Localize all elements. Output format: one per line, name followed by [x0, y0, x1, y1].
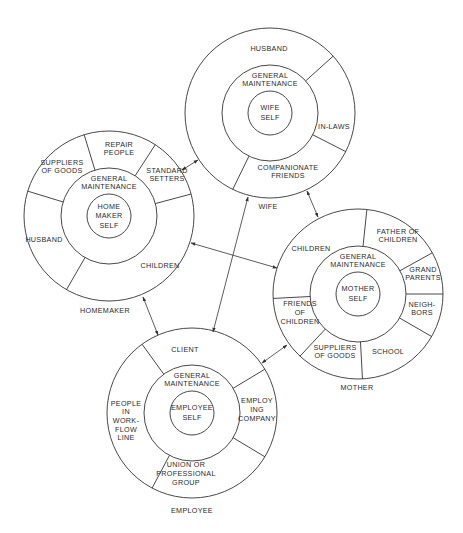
segment-label: EMPLOYINGCOMPANY [238, 396, 276, 422]
segment-label: SUPPLIERSOF GOODS [40, 158, 83, 176]
segment-divider [233, 438, 265, 457]
self-label: EMPLOYEESELF [171, 403, 213, 422]
role-title: EMPLOYEE [171, 506, 213, 515]
segment-divider [306, 56, 333, 81]
segment-label: CLIENT [171, 345, 199, 354]
maintenance-label: GENERALMAINTENANCE [330, 252, 386, 269]
segment-divider [28, 191, 63, 202]
role-diagram: WIFESELFGENERALMAINTENANCEHUSBANDIN-LAWS… [0, 0, 463, 533]
role-wife: WIFESELFGENERALMAINTENANCEHUSBANDIN-LAWS… [185, 28, 355, 211]
segment-label: STANDARDSETTERS [146, 166, 187, 184]
segment-divider [67, 258, 86, 290]
segment-divider [313, 135, 346, 152]
segment-label: REPAIRPEOPLE [104, 140, 135, 158]
segment-label: HUSBAND [250, 44, 287, 53]
role-diagram-canvas: WIFESELFGENERALMAINTENANCEHUSBANDIN-LAWS… [0, 0, 463, 533]
segment-label: SCHOOL [372, 347, 404, 356]
link-employee-mother [262, 345, 287, 363]
role-circles: WIFESELFGENERALMAINTENANCEHUSBANDIN-LAWS… [24, 28, 443, 515]
self-label: HOMEMAKERSELF [95, 201, 122, 229]
role-homemaker: HOMEMAKERSELFGENERALMAINTENANCESUPPLIERS… [24, 131, 194, 315]
segment-label: PEOPLEINWORK-FLOWLINE [111, 399, 142, 442]
link-homemaker-employee [143, 297, 158, 335]
segment-divider [155, 194, 191, 204]
segment-label: CHILDREN [291, 244, 330, 253]
segment-label: COMPANIONATEFRIENDS [258, 163, 319, 181]
segment-label: HUSBAND [25, 235, 62, 244]
segment-label: IN-LAWS [318, 122, 350, 131]
segment-divider [361, 342, 363, 379]
segment-divider [142, 344, 164, 374]
link-wife-employee [213, 197, 248, 332]
segment-label: SUPPLIERSOF GOODS [313, 343, 356, 361]
link-homemaker-mother [191, 243, 277, 268]
segment-divider [233, 156, 249, 189]
segment-label: GRANDPARENTS [405, 265, 441, 283]
role-title: HOMEMAKER [80, 306, 130, 315]
maintenance-label: GENERALMAINTENANCE [81, 174, 137, 191]
segment-divider [233, 369, 265, 388]
role-mother: MOTHERSELFGENERALMAINTENANCECHILDRENFATH… [273, 209, 443, 392]
maintenance-label: GENERALMAINTENANCE [164, 371, 220, 388]
segment-divider [400, 318, 432, 337]
self-label: MOTHERSELF [342, 284, 375, 303]
self-label: WIFESELF [260, 103, 279, 122]
segment-divider [84, 135, 95, 170]
segment-divider [273, 297, 310, 299]
link-wife-mother [307, 191, 318, 217]
role-title: WIFE [258, 202, 277, 211]
maintenance-label: GENERALMAINTENANCE [242, 71, 298, 88]
role-employee: EMPLOYEESELFGENERALMAINTENANCECLIENTEMPL… [107, 328, 277, 515]
segment-divider [363, 209, 367, 246]
role-title: MOTHER [341, 383, 374, 392]
segment-label: CHILDREN [140, 261, 179, 270]
segment-label: NEIGH-BORS [409, 300, 436, 318]
segment-label: FATHER OFCHILDREN [377, 227, 420, 245]
